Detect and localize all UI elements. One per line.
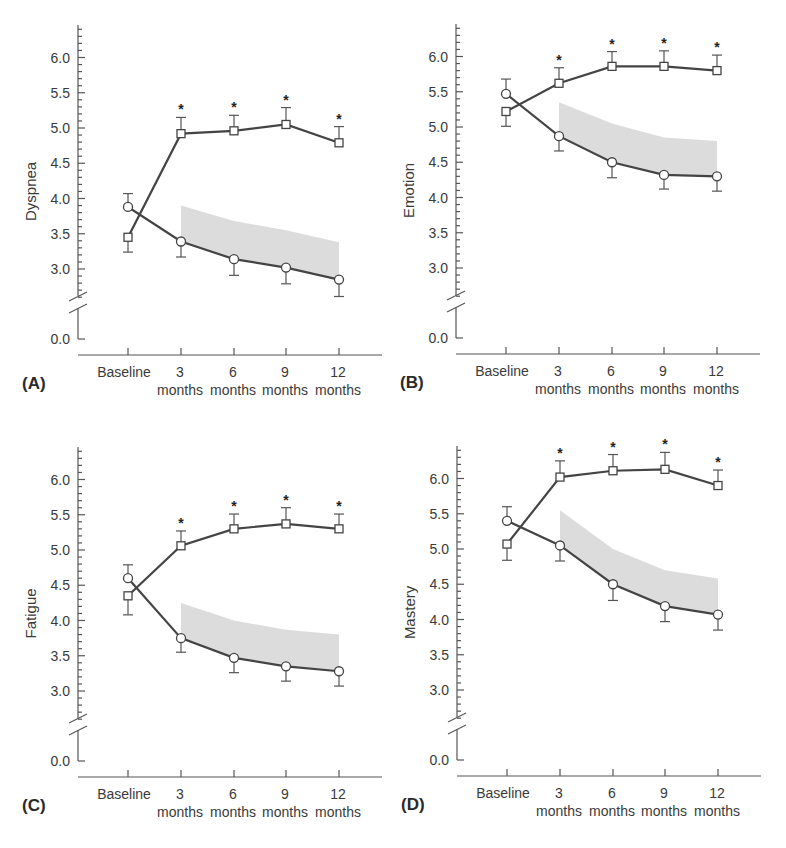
x-tick-label: 12 [330, 364, 346, 380]
y-tick-label: 5.0 [430, 541, 450, 557]
x-tick-sublabel: months [536, 803, 582, 819]
y-tick-label: 4.0 [430, 612, 450, 628]
square-series-line [128, 124, 339, 237]
x-tick-label: 9 [281, 786, 289, 802]
significance-star: * [178, 101, 184, 117]
y-tick-label: 3.5 [51, 226, 71, 242]
y-tick-label: 3.5 [430, 647, 450, 663]
x-tick-sublabel: months [210, 804, 256, 820]
y-tick-label: 3.5 [429, 225, 449, 241]
circle-marker [282, 662, 291, 671]
y-tick-label: 6.0 [51, 472, 71, 488]
significance-star: * [662, 436, 668, 452]
x-tick-sublabel: months [157, 804, 203, 820]
square-series-line [128, 524, 339, 596]
square-marker [556, 473, 564, 481]
circle-marker [282, 263, 291, 272]
square-marker [714, 482, 722, 490]
x-tick-label: 9 [660, 785, 668, 801]
y-tick-label: 5.5 [430, 506, 450, 522]
x-tick-sublabel: months [693, 381, 739, 397]
panel-d-mastery: 6.05.55.04.54.03.53.00.0MasteryBaseline3… [401, 436, 761, 819]
x-tick-label: 6 [607, 363, 615, 379]
square-marker [335, 139, 343, 147]
square-marker [177, 542, 185, 550]
square-marker [335, 525, 343, 533]
y-tick-label: 4.5 [51, 155, 71, 171]
x-tick-sublabel: months [315, 804, 361, 820]
square-marker [124, 233, 132, 241]
square-marker [713, 67, 721, 75]
significance-star: * [556, 52, 562, 68]
y-axis-title: Mastery [401, 585, 418, 639]
y-tick-label: 5.0 [51, 120, 71, 136]
square-marker [282, 520, 290, 528]
x-tick-label: 3 [176, 786, 184, 802]
y-tick-label: 5.5 [51, 85, 71, 101]
x-tick-label: 12 [709, 785, 725, 801]
y-tick-label: 0.0 [430, 752, 450, 768]
x-tick-sublabel: months [694, 803, 740, 819]
significance-star: * [178, 515, 184, 531]
y-tick-label: 5.5 [51, 507, 71, 523]
y-tick-label: 4.0 [51, 191, 71, 207]
y-tick-label: 3.0 [51, 261, 71, 277]
square-marker [230, 525, 238, 533]
square-marker [661, 465, 669, 473]
significance-star: * [283, 492, 289, 508]
significance-star: * [336, 111, 342, 127]
y-tick-label: 0.0 [429, 330, 449, 346]
circle-marker [230, 255, 239, 264]
reference-band [559, 102, 717, 176]
square-series-line [507, 469, 718, 544]
significance-star: * [714, 39, 720, 55]
y-tick-label: 6.0 [429, 49, 449, 65]
significance-star: * [557, 445, 563, 461]
panel-label: (C) [22, 796, 46, 815]
y-tick-label: 6.0 [430, 471, 450, 487]
y-tick-label: 3.0 [430, 682, 450, 698]
circle-marker [608, 158, 617, 167]
panel-label: (A) [22, 374, 46, 393]
x-tick-sublabel: months [210, 382, 256, 398]
x-tick-label: 12 [708, 363, 724, 379]
circle-marker [713, 172, 722, 181]
x-tick-sublabel: months [640, 381, 686, 397]
y-axis-title: Fatigue [22, 588, 39, 638]
significance-star: * [610, 439, 616, 455]
square-marker [555, 79, 563, 87]
x-tick-label: Baseline [475, 363, 529, 379]
x-tick-sublabel: months [157, 382, 203, 398]
x-tick-label: 9 [659, 363, 667, 379]
panel-label: (B) [400, 373, 424, 392]
circle-marker [335, 275, 344, 284]
square-marker [124, 592, 132, 600]
y-tick-label: 3.5 [51, 648, 71, 664]
circle-marker [503, 516, 512, 525]
x-tick-label: Baseline [476, 785, 530, 801]
square-marker [608, 62, 616, 70]
panel-label: (D) [401, 795, 425, 814]
square-series-line [506, 66, 717, 111]
y-tick-label: 4.0 [51, 613, 71, 629]
circle-marker [609, 580, 618, 589]
panel-b-emotion: 6.05.55.04.54.03.53.00.0EmotionBaseline3… [400, 24, 760, 397]
circle-marker [661, 602, 670, 611]
square-marker [177, 130, 185, 138]
x-tick-label: 3 [176, 364, 184, 380]
square-marker [282, 120, 290, 128]
x-tick-sublabel: months [589, 803, 635, 819]
x-tick-label: 12 [330, 786, 346, 802]
y-tick-label: 5.0 [429, 119, 449, 135]
circle-marker [502, 89, 511, 98]
x-tick-label: 9 [281, 364, 289, 380]
x-tick-label: 6 [229, 364, 237, 380]
x-tick-label: 3 [554, 363, 562, 379]
circle-marker [177, 237, 186, 246]
y-tick-label: 6.0 [51, 50, 71, 66]
x-tick-sublabel: months [588, 381, 634, 397]
square-marker [503, 540, 511, 548]
x-tick-sublabel: months [641, 803, 687, 819]
x-tick-sublabel: months [315, 382, 361, 398]
y-tick-label: 4.5 [429, 154, 449, 170]
